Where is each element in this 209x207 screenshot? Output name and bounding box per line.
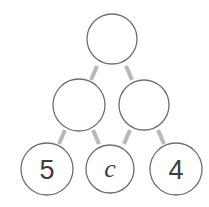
- number-pyramid-diagram: 5 c 4: [0, 0, 209, 207]
- node-mid-right: [119, 80, 169, 130]
- edge-midleft-bottomleft: [59, 130, 65, 144]
- edge-midleft-bottommiddle: [93, 130, 99, 144]
- node-bottom-middle-label: c: [104, 154, 116, 183]
- edge-top-midleft: [91, 66, 97, 80]
- node-bottom-middle: c: [86, 145, 134, 193]
- node-bottom-left: 5: [21, 143, 73, 195]
- edge-midright-bottommiddle: [124, 130, 130, 144]
- node-bottom-right: 4: [150, 143, 202, 195]
- edge-top-midright: [126, 66, 132, 80]
- node-bottom-left-label: 5: [39, 155, 54, 185]
- edge-midright-bottomright: [158, 130, 164, 144]
- node-mid-left: [53, 79, 105, 131]
- node-top: [87, 14, 137, 64]
- node-bottom-right-label: 4: [168, 155, 183, 185]
